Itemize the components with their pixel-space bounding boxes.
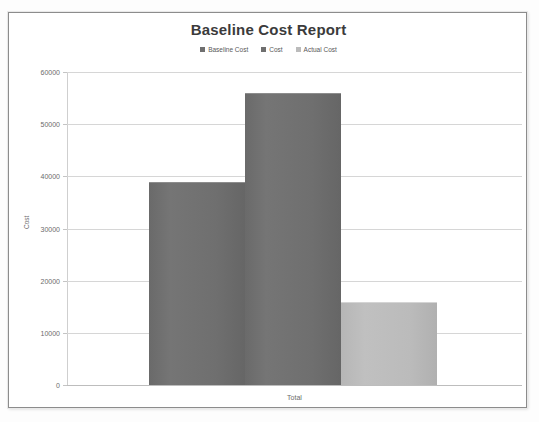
- legend-item-baseline-cost[interactable]: Baseline Cost: [200, 46, 248, 53]
- legend-label: Baseline Cost: [208, 46, 248, 53]
- chart-legend: Baseline Cost Cost Actual Cost: [9, 46, 528, 53]
- gridline: [67, 385, 522, 386]
- plot-wrapper: 6000050000400003000020000100000 Total: [67, 72, 522, 387]
- scanned-page: Baseline Cost Report Baseline Cost Cost …: [0, 0, 539, 422]
- y-axis-tick-label: 60000: [41, 69, 60, 76]
- bar-actual-cost[interactable]: [341, 302, 437, 385]
- y-axis-tick: [63, 385, 67, 386]
- chart-title: Baseline Cost Report: [9, 21, 528, 38]
- legend-item-actual-cost[interactable]: Actual Cost: [296, 46, 337, 53]
- y-axis-tick-label: 50000: [41, 121, 60, 128]
- legend-swatch-icon: [296, 47, 301, 52]
- y-axis-tick-label: 30000: [41, 226, 60, 233]
- legend-swatch-icon: [261, 47, 266, 52]
- bar-baseline-cost[interactable]: [149, 182, 245, 385]
- y-axis-tick-label: 20000: [41, 278, 60, 285]
- y-axis-tick-label: 0: [56, 382, 60, 389]
- y-axis-tick-label: 10000: [41, 330, 60, 337]
- legend-label: Actual Cost: [304, 46, 337, 53]
- legend-label: Cost: [269, 46, 282, 53]
- legend-item-cost[interactable]: Cost: [261, 46, 282, 53]
- y-axis-title: Cost: [23, 216, 30, 229]
- chart-paper-frame: Baseline Cost Report Baseline Cost Cost …: [8, 12, 527, 408]
- bars-layer: [67, 72, 522, 385]
- x-axis-category-label: Total: [67, 394, 522, 401]
- bar-chart: Baseline Cost Report Baseline Cost Cost …: [9, 13, 528, 407]
- plot-area: 6000050000400003000020000100000: [67, 72, 522, 385]
- legend-swatch-icon: [200, 47, 205, 52]
- y-axis-tick-label: 40000: [41, 173, 60, 180]
- bar-cost[interactable]: [245, 93, 341, 385]
